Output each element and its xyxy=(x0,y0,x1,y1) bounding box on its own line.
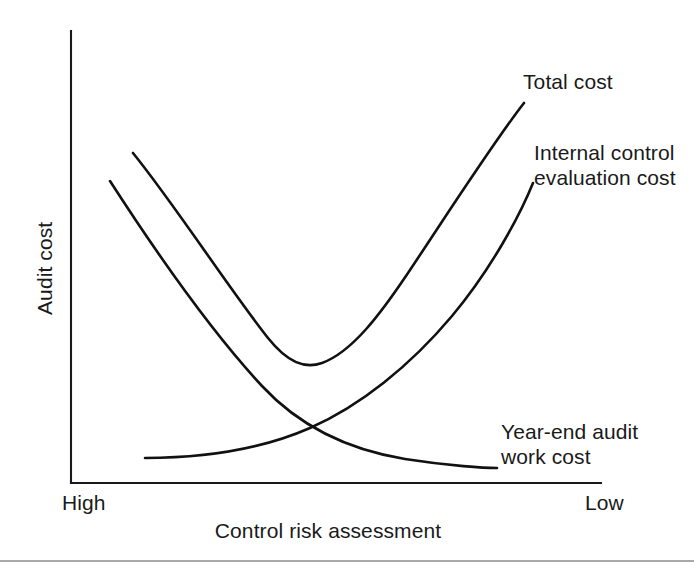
x-axis-tick-label-low: Low xyxy=(585,491,624,516)
x-axis-tick-label-high: High xyxy=(62,491,106,516)
x-axis-title: Control risk assessment xyxy=(0,519,656,544)
y-axis-title: Audit cost xyxy=(33,198,58,338)
annotation-internal-control-line2: evaluation cost xyxy=(534,166,676,191)
annotation-year-end-line1: Year-end audit xyxy=(501,420,638,443)
annotation-internal-control-line1: Internal control xyxy=(534,141,675,164)
figure-root: Total cost Internal controlevaluation co… xyxy=(0,0,694,572)
annotation-total-cost: Total cost xyxy=(523,70,613,95)
curve-total-cost xyxy=(133,103,524,365)
annotation-internal-control-evaluation-cost: Internal controlevaluation cost xyxy=(534,141,676,191)
curve-year-end-audit-work-cost xyxy=(145,183,533,458)
annotation-year-end-line2: work cost xyxy=(501,445,638,470)
annotation-year-end-audit-work-cost: Year-end auditwork cost xyxy=(501,420,638,470)
